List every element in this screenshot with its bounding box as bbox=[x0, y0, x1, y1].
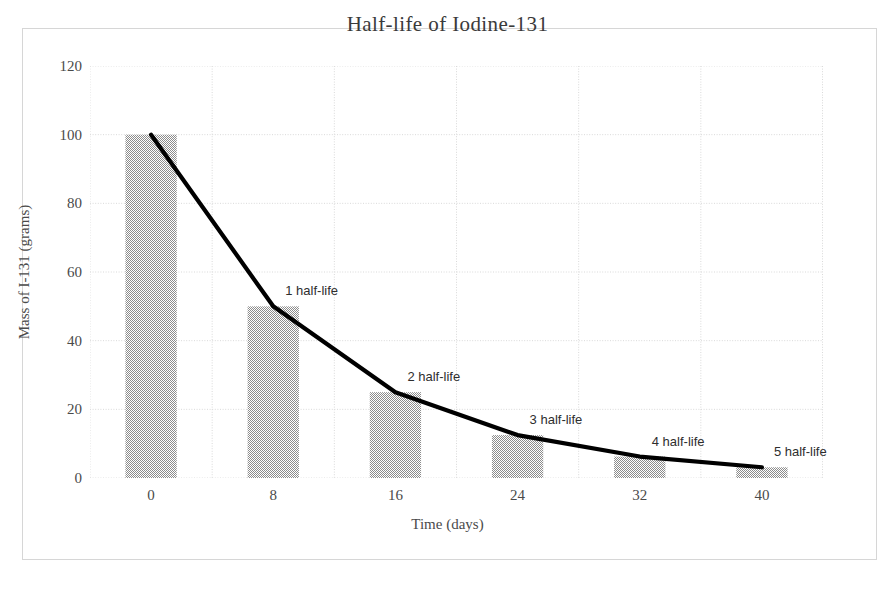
y-axis-tick-label: 80 bbox=[67, 195, 82, 212]
point-annotation: 5 half-life bbox=[774, 444, 827, 459]
point-annotation: 2 half-life bbox=[407, 369, 460, 384]
chart-title: Half-life of Iodine-131 bbox=[0, 12, 895, 37]
x-axis-tick-label: 0 bbox=[147, 487, 155, 504]
y-axis-tick-label: 20 bbox=[67, 401, 82, 418]
y-axis-tick-label: 0 bbox=[75, 470, 83, 487]
y-axis-title: Mass of I-131 (grams) bbox=[16, 205, 33, 340]
y-axis-tick-label: 60 bbox=[67, 264, 82, 281]
x-axis-title: Time (days) bbox=[0, 516, 895, 533]
x-axis-tick-label: 16 bbox=[388, 487, 403, 504]
plot-area: 02040608010012008162432401 half-life2 ha… bbox=[90, 66, 823, 478]
x-axis-tick-label: 8 bbox=[270, 487, 278, 504]
x-axis-tick-label: 40 bbox=[754, 487, 769, 504]
y-axis-tick-label: 120 bbox=[60, 58, 83, 75]
point-annotation: 3 half-life bbox=[530, 412, 583, 427]
y-axis-tick-label: 40 bbox=[67, 332, 82, 349]
point-annotation: 1 half-life bbox=[285, 283, 338, 298]
x-axis-tick-label: 32 bbox=[632, 487, 647, 504]
point-annotation: 4 half-life bbox=[652, 433, 705, 448]
plot-svg bbox=[90, 66, 823, 478]
chart-figure: Half-life of Iodine-131 0204060801001200… bbox=[0, 0, 895, 589]
x-axis-tick-label: 24 bbox=[510, 487, 525, 504]
y-axis-tick-label: 100 bbox=[60, 126, 83, 143]
